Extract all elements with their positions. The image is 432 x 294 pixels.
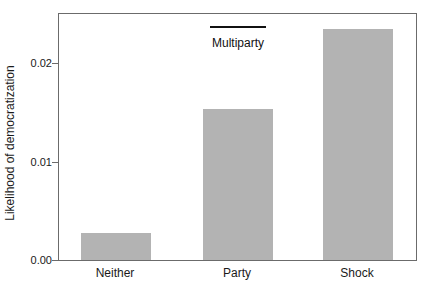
- y-tick-label-0.01: 0.01: [0, 155, 52, 169]
- y-tick-label-0.00: 0.00: [0, 253, 52, 267]
- y-axis-title-text: Likelihood of democratization: [3, 65, 17, 220]
- x-tick-label-shock: Shock: [312, 266, 402, 280]
- annotation-label: Multiparty: [188, 36, 288, 50]
- democratization-bar-chart: Likelihood of democratization Multiparty…: [0, 0, 432, 294]
- y-tick-mark: [52, 162, 58, 163]
- plot-area: Multiparty: [58, 13, 417, 261]
- x-tick-label-party: Party: [192, 266, 282, 280]
- bar-shock: [323, 29, 393, 260]
- y-tick-label-0.02: 0.02: [0, 56, 52, 70]
- bar-party: [203, 109, 273, 260]
- x-tick-label-neither: Neither: [70, 266, 160, 280]
- y-tick-mark: [52, 260, 58, 261]
- bar-neither: [81, 233, 151, 260]
- y-tick-mark: [52, 63, 58, 64]
- annotation-overline: [210, 26, 266, 28]
